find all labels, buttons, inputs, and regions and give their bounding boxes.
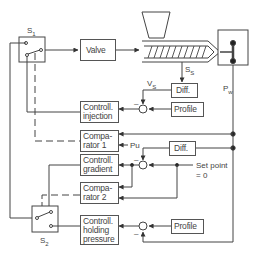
ss-label: SS xyxy=(185,65,194,78)
vs-label: VS xyxy=(147,79,156,92)
barrel-icon xyxy=(142,41,220,62)
diff-top-label: Diff. xyxy=(176,86,197,95)
valve-label: Valve xyxy=(86,46,115,55)
controll-holding-pressure-block: Controll. holding pressure xyxy=(80,215,119,245)
controll-gradient-line2: gradient xyxy=(83,165,118,174)
comparator-2-block: Compa- rator 2 xyxy=(80,182,119,204)
comparator-1-line2: rator 1 xyxy=(83,141,118,150)
diagram-lines xyxy=(0,0,253,262)
profile-2-label: Profile xyxy=(174,222,203,231)
s1-label: S1 xyxy=(27,26,36,39)
minus-sign-2: – xyxy=(134,155,138,164)
setpoint-label: Set point xyxy=(196,161,228,170)
comparator-1-block: Compa- rator 1 xyxy=(80,130,119,152)
minus-sign-3: – xyxy=(134,229,138,238)
comparator-2-line2: rator 2 xyxy=(83,193,118,202)
diff-mid-block: Diff. xyxy=(169,141,196,156)
controll-holding-line3: pressure xyxy=(83,235,118,244)
pw-label: Pw xyxy=(223,84,233,97)
profile-2-block: Profile xyxy=(171,219,204,234)
s2-label: S2 xyxy=(40,236,49,249)
minus-sign-1: – xyxy=(134,99,138,108)
valve-block: Valve xyxy=(80,39,116,61)
diff-top-block: Diff. xyxy=(171,83,198,98)
injection-molding-control-diagram: Valve Diff. Profile Controll. injection … xyxy=(0,0,253,262)
controll-injection-block: Controll. injection xyxy=(80,101,119,123)
controll-gradient-block: Controll. gradient xyxy=(80,154,119,176)
diff-mid-label: Diff. xyxy=(174,144,195,153)
setpoint-zero-label: = 0 xyxy=(196,171,207,180)
profile-1-label: Profile xyxy=(174,105,203,114)
profile-1-block: Profile xyxy=(171,102,204,117)
controll-injection-line2: injection xyxy=(83,112,118,121)
pu-label: Pu xyxy=(130,141,140,150)
hopper-icon xyxy=(142,12,170,38)
